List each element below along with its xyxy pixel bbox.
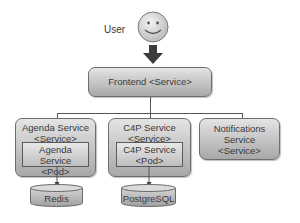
smiley-face-icon <box>137 11 169 43</box>
agenda-pod-node: Agenda Service <Pod> <box>22 142 89 167</box>
c4p-pod-title: C4P Service <box>117 144 182 155</box>
notifications-service-node: Notifications Service <Service> <box>199 118 280 160</box>
c4p-service-title: C4P Service <box>109 122 190 133</box>
user-label: User <box>104 24 125 35</box>
redis-label: Redis <box>30 193 83 204</box>
agenda-service-title: Agenda Service <box>16 122 95 133</box>
c4p-pod-node: C4P Service <Pod> <box>116 142 183 167</box>
down-arrow-icon <box>143 45 163 64</box>
frontend-label: Frontend <Service> <box>89 68 211 96</box>
connector-c4p <box>150 97 151 119</box>
notifications-type: <Service> <box>200 145 279 156</box>
postgresql-datastore: PostgreSQL <box>121 184 176 207</box>
redis-datastore: Redis <box>30 184 83 207</box>
agenda-pod-title: Agenda Service <box>23 144 88 166</box>
notifications-title-2: Service <box>200 134 279 145</box>
c4p-pod-type: <Pod> <box>117 155 182 166</box>
postgresql-label: PostgreSQL <box>121 193 176 204</box>
notifications-title: Notifications <box>200 123 279 134</box>
frontend-service-node: Frontend <Service> <box>88 67 212 97</box>
